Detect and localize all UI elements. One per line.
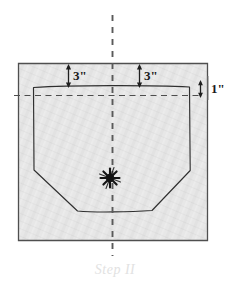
dimension-label-left: 3" (73, 68, 87, 83)
step-caption: Step II (95, 262, 136, 277)
diagram-canvas: 3" 3" 1" Step II (0, 0, 230, 291)
dimension-label-offset: 1" (211, 81, 225, 96)
step-diagram-figure: 3" 3" 1" Step II (0, 0, 230, 291)
dimension-label-right: 3" (144, 68, 158, 83)
